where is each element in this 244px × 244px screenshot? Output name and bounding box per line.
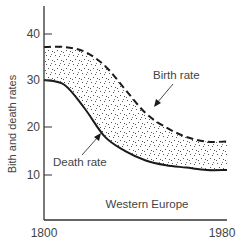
death-rate-arrow xyxy=(82,137,98,155)
x-tick-label-1800: 1800 xyxy=(31,226,58,240)
demographic-transition-chart: 40 30 20 10 1800 1980 Bith and death rat… xyxy=(0,0,244,244)
birth-rate-arrowhead xyxy=(154,99,161,107)
y-axis-title: Bith and death rates xyxy=(6,74,18,173)
y-tick-label-20: 20 xyxy=(27,120,41,134)
birth-rate-label: Birth rate xyxy=(153,69,200,81)
birth-rate-arrow xyxy=(157,84,173,103)
region-label: Western Europe xyxy=(106,198,189,210)
y-tick-label-10: 10 xyxy=(27,168,41,182)
death-rate-label: Death rate xyxy=(53,156,107,168)
fill-between-region xyxy=(44,47,227,171)
y-tick-label-30: 30 xyxy=(27,73,41,87)
x-tick-label-1980: 1980 xyxy=(209,226,236,240)
y-tick-label-40: 40 xyxy=(27,27,41,41)
